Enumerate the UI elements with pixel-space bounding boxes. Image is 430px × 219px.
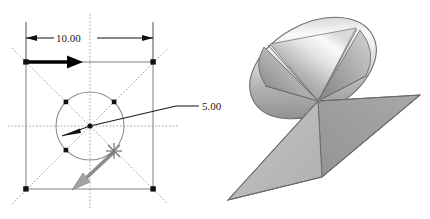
cone-apex xyxy=(315,98,320,103)
center-marker xyxy=(87,123,92,128)
corner-marker-top-left xyxy=(23,59,28,64)
star-marker xyxy=(106,143,122,159)
circle-marker-upper-left xyxy=(64,100,69,105)
corner-marker-top-right xyxy=(150,59,155,64)
width-dimension-label: 10.00 xyxy=(56,32,81,44)
corner-marker-bottom-left xyxy=(23,186,28,191)
figure-canvas: 10.00 5.00 xyxy=(0,0,430,219)
radius-dimension-label: 5.00 xyxy=(202,100,222,112)
circle-marker-upper-right xyxy=(112,100,117,105)
circle-marker-lower-left xyxy=(64,148,69,153)
corner-marker-bottom-right xyxy=(150,186,155,191)
